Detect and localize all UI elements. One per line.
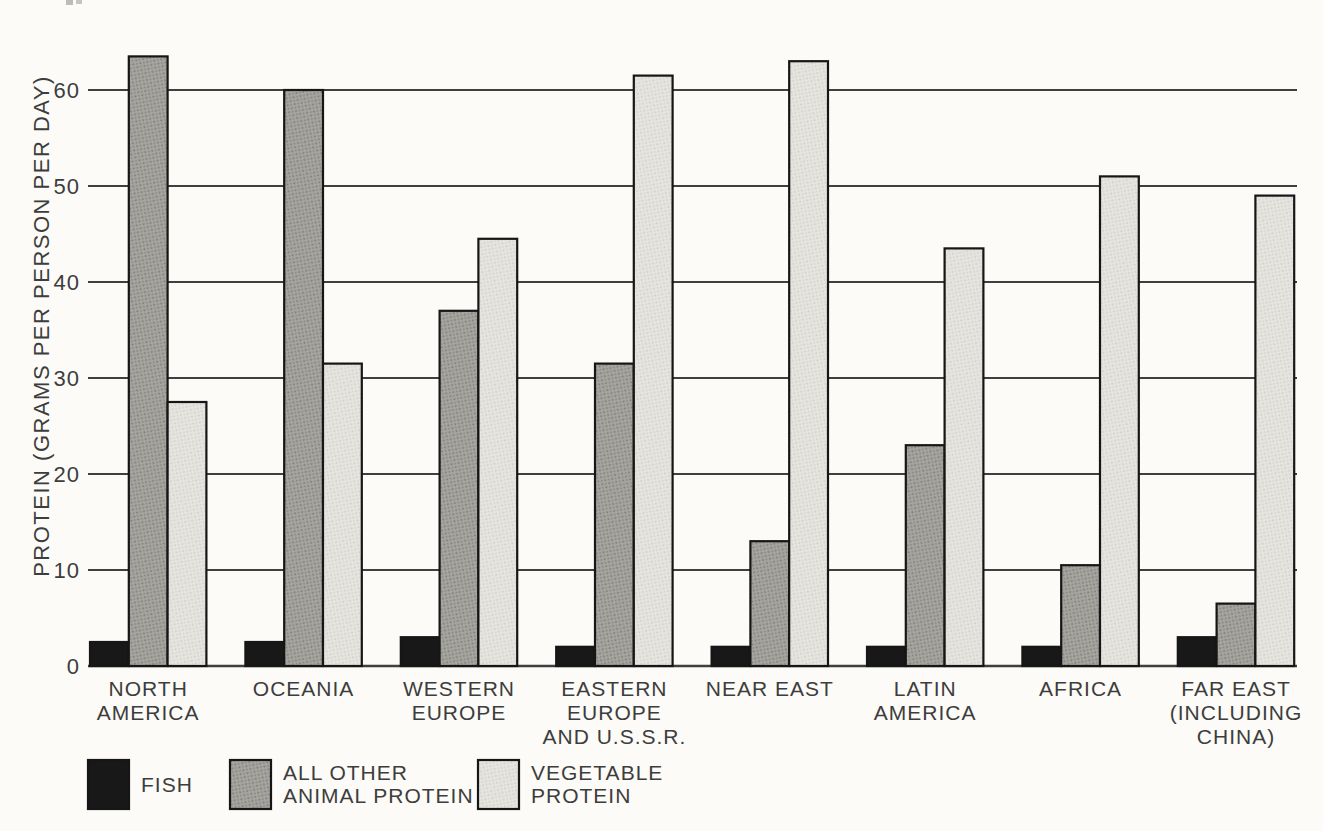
protein-bar-chart: 0102030405060PROTEIN (GRAMS PER PERSON P… (0, 0, 1323, 831)
legend-item-all-other-animal-protein: ALL OTHERANIMAL PROTEIN (230, 760, 474, 809)
category-label-line: WESTERN (403, 677, 515, 700)
bar-all-other-animal-protein-far-east-including-china (1217, 604, 1256, 666)
y-tick-label-50: 50 (54, 174, 80, 199)
bar-vegetable-protein-latin-america (945, 248, 984, 666)
y-tick-label-60: 60 (54, 78, 80, 103)
y-tick-label-30: 30 (54, 366, 80, 391)
bar-vegetable-protein-eastern-europe-and-u-s-s-r (634, 76, 673, 666)
y-tick-label-10: 10 (54, 558, 80, 583)
bar-fish-eastern-europe-and-u-s-s-r (556, 647, 595, 666)
scanned-page: 0102030405060PROTEIN (GRAMS PER PERSON P… (0, 0, 1323, 831)
y-tick-label-0: 0 (67, 654, 80, 679)
scan-artifact (66, 0, 82, 5)
legend-label-fish: FISH (141, 773, 193, 796)
category-label-north-america: NORTHAMERICA (97, 677, 200, 724)
bar-all-other-animal-protein-western-europe (440, 311, 479, 666)
y-tick-label-40: 40 (54, 270, 80, 295)
category-label-far-east-including-china: FAR EAST(INCLUDINGCHINA) (1170, 677, 1303, 748)
category-label-line: EUROPE (567, 701, 662, 724)
category-label-line: FAR EAST (1181, 677, 1291, 700)
legend-label-vegetable-protein: PROTEIN (531, 784, 631, 807)
bar-vegetable-protein-western-europe (478, 239, 517, 666)
category-label-line: CHINA) (1197, 725, 1275, 748)
y-tick-label-20: 20 (54, 462, 80, 487)
legend-swatch-vegetable-protein (478, 760, 519, 809)
x-axis-labels: NORTHAMERICAOCEANIAWESTERNEUROPEEASTERNE… (97, 677, 1302, 748)
category-label-line: AFRICA (1039, 677, 1122, 700)
bar-vegetable-protein-africa (1100, 176, 1139, 666)
category-label-near-east: NEAR EAST (706, 677, 834, 700)
bar-all-other-animal-protein-latin-america (906, 445, 945, 666)
bar-fish-western-europe (401, 637, 440, 666)
category-label-oceania: OCEANIA (253, 677, 355, 700)
legend-swatch-fish (88, 760, 129, 809)
bar-vegetable-protein-far-east-including-china (1255, 196, 1294, 666)
bar-vegetable-protein-near-east (789, 61, 828, 666)
legend-label-vegetable-protein: VEGETABLE (531, 761, 663, 784)
bar-vegetable-protein-oceania (323, 364, 362, 666)
category-label-line: EUROPE (412, 701, 507, 724)
bar-fish-north-america (90, 642, 129, 666)
bar-vegetable-protein-north-america (168, 402, 207, 666)
category-label-eastern-europe-and-u-s-s-r: EASTERNEUROPEAND U.S.S.R. (542, 677, 686, 748)
bar-all-other-animal-protein-africa (1061, 565, 1100, 666)
category-label-line: AND U.S.S.R. (542, 725, 686, 748)
legend-item-fish: FISH (88, 760, 193, 809)
bar-fish-near-east (712, 647, 751, 666)
legend: FISHALL OTHERANIMAL PROTEINVEGETABLEPROT… (88, 760, 663, 809)
bar-fish-latin-america (867, 647, 906, 666)
legend-swatch-all-other-animal-protein (230, 760, 271, 809)
legend-item-vegetable-protein: VEGETABLEPROTEIN (478, 760, 663, 809)
category-label-line: AMERICA (874, 701, 977, 724)
bars (90, 56, 1294, 666)
legend-label-all-other-animal-protein: ANIMAL PROTEIN (283, 784, 474, 807)
category-label-line: (INCLUDING (1170, 701, 1303, 724)
bar-all-other-animal-protein-eastern-europe-and-u-s-s-r (595, 364, 634, 666)
bar-all-other-animal-protein-oceania (284, 90, 323, 666)
bar-all-other-animal-protein-north-america (129, 56, 168, 666)
bar-fish-oceania (245, 642, 284, 666)
category-label-line: LATIN (894, 677, 957, 700)
bar-all-other-animal-protein-near-east (750, 541, 789, 666)
category-label-line: OCEANIA (253, 677, 355, 700)
category-label-line: EASTERN (561, 677, 667, 700)
category-label-line: AMERICA (97, 701, 200, 724)
legend-label-all-other-animal-protein: ALL OTHER (283, 761, 408, 784)
y-axis: 0102030405060PROTEIN (GRAMS PER PERSON P… (29, 75, 80, 679)
category-label-africa: AFRICA (1039, 677, 1122, 700)
category-label-line: NEAR EAST (706, 677, 834, 700)
bar-fish-far-east-including-china (1178, 637, 1217, 666)
category-label-latin-america: LATINAMERICA (874, 677, 977, 724)
category-label-line: NORTH (109, 677, 188, 700)
category-label-western-europe: WESTERNEUROPE (403, 677, 515, 724)
bar-fish-africa (1022, 647, 1061, 666)
y-axis-title: PROTEIN (GRAMS PER PERSON PER DAY) (29, 75, 54, 577)
